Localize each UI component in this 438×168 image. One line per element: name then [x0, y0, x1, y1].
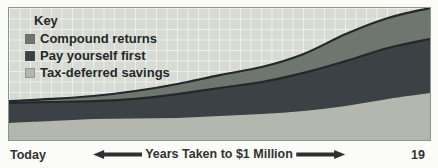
chart-legend: Key Compound returnsPay yourself firstTa…	[25, 13, 170, 82]
legend-swatch-icon	[25, 34, 35, 44]
legend-swatch-icon	[25, 68, 35, 78]
x-axis-title: Years Taken to $1 Million	[145, 147, 293, 161]
arrow-left-icon	[93, 150, 142, 159]
x-axis-labels: Today Years Taken to $1 Million 19	[0, 147, 438, 165]
legend-item-label: Pay yourself first	[40, 48, 146, 64]
x-axis-title-group: Years Taken to $1 Million	[93, 147, 345, 161]
arrow-left-shape	[93, 150, 142, 159]
arrow-right-icon	[296, 150, 345, 159]
legend-item: Pay yourself first	[25, 48, 170, 64]
legend-item-list: Compound returnsPay yourself firstTax-de…	[25, 31, 170, 81]
legend-item-label: Tax-deferred savings	[40, 65, 170, 81]
page-number: 19	[411, 148, 425, 162]
arrow-right-shape	[296, 150, 345, 159]
legend-item: Compound returns	[25, 31, 170, 47]
legend-item: Tax-deferred savings	[25, 65, 170, 81]
chart-plot-area: Key Compound returnsPay yourself firstTa…	[8, 7, 431, 141]
legend-item-label: Compound returns	[40, 31, 157, 47]
legend-swatch-icon	[25, 51, 35, 61]
x-axis-start-label: Today	[10, 148, 46, 162]
legend-title: Key	[34, 13, 170, 29]
